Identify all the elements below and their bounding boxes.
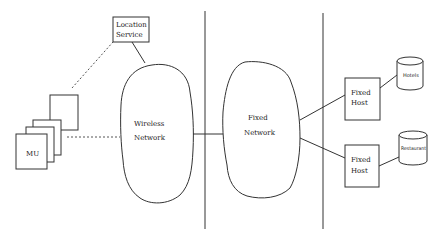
host1-hotels-link — [380, 75, 397, 88]
fixed-host-2-label-2: Host — [351, 167, 368, 175]
mu-label: MU — [26, 150, 39, 158]
location-service-label-1: Location — [116, 21, 147, 29]
network-diagram: Wireless Network Fixed Network Location … — [0, 0, 443, 245]
location-service-label-2: Service — [116, 31, 143, 39]
wireless-network-label-2: Network — [134, 134, 166, 142]
fixed-host-1: Fixed Host — [345, 78, 380, 120]
hotels-label: Hotels — [403, 72, 419, 78]
restaurant-label: Restaurant — [401, 145, 426, 151]
fixed-host-1-label-2: Host — [351, 99, 368, 107]
wireless-network-label-1: Wireless — [134, 120, 165, 128]
location-wireless-link — [132, 42, 145, 63]
mu-stack: MU — [16, 95, 78, 169]
fixed-network-label-1: Fixed — [248, 114, 268, 122]
fixed-host-2-label-1: Fixed — [351, 156, 371, 164]
mu-location-link — [72, 42, 113, 88]
location-service-node: Location Service — [113, 17, 149, 42]
fixed-network-label-2: Network — [244, 129, 276, 137]
fixed-host-2: Fixed Host — [345, 145, 379, 187]
fixed-host-1-label-1: Fixed — [351, 89, 371, 97]
restaurant-database-icon: Restaurant — [399, 131, 427, 165]
hotels-database-icon: Hotels — [397, 57, 423, 90]
host2-restaurant-link — [379, 157, 399, 166]
